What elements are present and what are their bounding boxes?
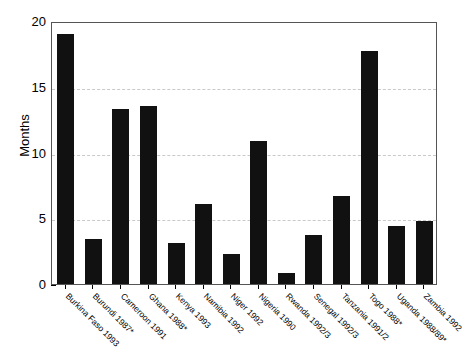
bar — [85, 239, 102, 284]
bar — [250, 141, 267, 284]
y-tick-label: 10 — [18, 147, 46, 160]
x-tick-label-text: Tanzania 1991/2 — [339, 291, 390, 342]
x-axis-tick-labels: Burkina Faso 1993Burundi 1987*Cameroon 1… — [51, 285, 437, 364]
bar — [223, 254, 240, 284]
bar — [361, 51, 378, 284]
bar — [112, 109, 129, 284]
bar — [278, 273, 295, 284]
x-tick-label: Tanzania 1991/2 — [339, 291, 390, 342]
x-tick-label-text: Uganda 1988/89* — [395, 291, 449, 345]
bar — [333, 196, 350, 284]
y-tick-label: 0 — [18, 278, 46, 291]
bar — [168, 243, 185, 284]
plot-area — [51, 22, 437, 285]
bar — [388, 226, 405, 284]
y-tick-label: 15 — [18, 81, 46, 94]
bar — [195, 204, 212, 284]
y-tick-label: 5 — [18, 212, 46, 225]
x-tick-label: Uganda 1988/89* — [395, 291, 449, 345]
bar — [305, 235, 322, 284]
bar — [57, 34, 74, 284]
bar-series — [52, 23, 436, 284]
y-axis-tick-labels: 05101520 — [16, 0, 46, 364]
bar — [140, 106, 157, 284]
y-tick-label: 20 — [18, 15, 46, 28]
bar — [416, 221, 433, 284]
